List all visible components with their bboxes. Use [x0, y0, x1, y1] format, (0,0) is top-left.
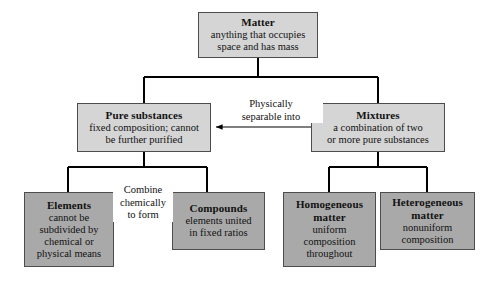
node-matter: Matter anything that occupies space and … [198, 12, 318, 58]
node-compounds: Compounds elements united in fixed ratio… [172, 192, 265, 250]
node-mixtures-desc-line2: or more pure substances [327, 134, 429, 146]
edge-label-combine-chemically-to-form: Combine chemically to form [113, 184, 173, 222]
matter-classification-diagram: Matter anything that occupies space and … [0, 0, 492, 281]
node-homogeneous-matter-desc-line3: throughout [306, 248, 352, 260]
node-homogeneous-matter-title-line2: matter [313, 211, 345, 224]
node-pure-substances-title: Pure substances [106, 109, 183, 122]
node-compounds-desc-line1: elements united [185, 215, 251, 227]
edge-label-combine-chemically-to-form-line1: Combine [113, 184, 173, 197]
node-mixtures: Mixtures a combination of two or more pu… [311, 103, 445, 152]
node-heterogeneous-matter-desc-line1: nonuniform [403, 222, 453, 234]
node-mixtures-title: Mixtures [356, 109, 399, 122]
edge-label-physically-separable-into: Physically separable into [219, 98, 323, 123]
node-elements-desc-line3: chemical or [44, 236, 93, 248]
node-elements-title: Elements [47, 199, 91, 212]
node-elements: Elements cannot be subdivided by chemica… [24, 192, 114, 267]
edge-label-physically-separable-into-line1: Physically [219, 98, 323, 111]
node-elements-desc-line2: subdivided by [39, 224, 98, 236]
node-heterogeneous-matter-title-line2: matter [411, 209, 443, 222]
node-heterogeneous-matter-title-line1: Heterogeneous [392, 196, 463, 209]
edge-label-physically-separable-into-line2: separable into [219, 111, 323, 124]
node-pure-substances-desc-line1: fixed composition; cannot [89, 122, 199, 134]
edge-label-combine-chemically-to-form-line2: chemically [113, 197, 173, 210]
node-heterogeneous-matter-desc-line2: composition [402, 234, 454, 246]
node-elements-desc-line1: cannot be [49, 212, 90, 224]
node-homogeneous-matter-desc-line2: composition [304, 236, 356, 248]
node-heterogeneous-matter: Heterogeneous matter nonuniform composit… [380, 192, 475, 250]
node-matter-title: Matter [241, 16, 275, 29]
node-matter-desc-line1: anything that occupies [211, 29, 305, 41]
node-homogeneous-matter: Homogeneous matter uniform composition t… [283, 192, 376, 267]
node-homogeneous-matter-desc-line1: uniform [313, 224, 347, 236]
node-mixtures-desc-line1: a combination of two [333, 122, 423, 134]
node-homogeneous-matter-title-line1: Homogeneous [296, 198, 363, 211]
node-pure-substances-desc-line2: be further purified [106, 134, 183, 146]
edge-label-combine-chemically-to-form-line3: to form [113, 209, 173, 222]
node-compounds-desc-line2: in fixed ratios [189, 227, 247, 239]
node-matter-desc-line2: space and has mass [217, 41, 298, 53]
node-pure-substances: Pure substances fixed composition; canno… [77, 103, 211, 152]
node-elements-desc-line4: physical means [37, 248, 101, 260]
node-compounds-title: Compounds [190, 202, 248, 215]
